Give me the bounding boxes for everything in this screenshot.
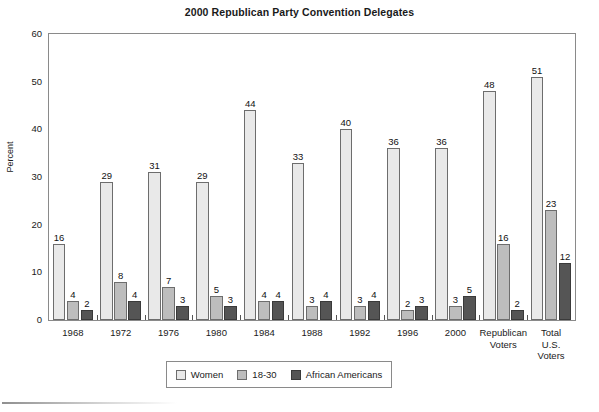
bar-chart: 2000 Republican Party Convention Delegat… [0,0,599,412]
bar-value-label: 4 [362,289,387,300]
bar [387,148,400,320]
bar-value-label: 29 [190,170,215,181]
y-axis-tick-label: 0 [2,314,42,325]
x-axis-tick [288,315,289,320]
bar-value-label: 12 [553,251,578,262]
bar [100,182,113,320]
bar-value-label: 48 [477,79,502,90]
bar-value-label: 33 [286,151,311,162]
bar [114,282,127,320]
chart-legend: Women18-30African Americans [166,361,392,388]
x-axis-tick [384,315,385,320]
bar-value-label: 3 [409,294,434,305]
legend-item[interactable]: 18-30 [237,369,276,380]
x-axis-tick [240,315,241,320]
bar-value-label: 3 [218,294,243,305]
legend-swatch-icon [237,370,247,380]
y-axis-tick-label: 60 [2,28,42,39]
bar [559,263,572,320]
bar-value-label: 5 [457,284,482,295]
bar [340,129,353,320]
bar [368,301,381,320]
bar [463,296,476,320]
x-axis-tick-label-line: Voters [519,350,583,362]
x-axis-tick [336,315,337,320]
legend-swatch-icon [291,370,301,380]
bar-value-label: 4 [122,289,147,300]
bar-value-label: 51 [525,65,550,76]
bar [128,301,141,320]
x-axis-tick-label-line: U.S. [519,339,583,351]
bar [81,310,94,320]
bar-value-label: 8 [108,270,133,281]
footer-rule [2,402,177,404]
bar [354,306,367,320]
bar-value-label: 44 [238,98,263,109]
bar [306,306,319,320]
legend-label: Women [191,369,224,380]
legend-label: African Americans [306,369,383,380]
bar-value-label: 4 [266,289,291,300]
legend-label: 18-30 [252,369,276,380]
bar [176,306,189,320]
legend-swatch-icon [176,370,186,380]
x-axis-tick [192,315,193,320]
y-axis-tick-label: 40 [2,123,42,134]
bar [483,91,496,320]
x-axis-tick-label: TotalU.S.Voters [519,327,583,362]
bar [449,306,462,320]
bar [224,306,237,320]
y-axis-tick-label: 10 [2,266,42,277]
y-axis-tick-label: 20 [2,219,42,230]
legend-item[interactable]: African Americans [291,369,383,380]
y-axis-tick-label: 30 [2,171,42,182]
bar-value-label: 16 [491,232,516,243]
bar [401,310,414,320]
bar-value-label: 36 [381,136,406,147]
legend-item[interactable]: Women [176,369,224,380]
bar-value-label: 4 [314,289,339,300]
x-axis-tick-label-line: Total [519,327,583,339]
x-axis-tick [432,315,433,320]
x-axis-tick [527,315,528,320]
bar-value-label: 40 [334,117,359,128]
bar [53,244,66,320]
bar-value-label: 23 [539,198,564,209]
chart-title: 2000 Republican Party Convention Delegat… [0,6,599,18]
bar-value-label: 36 [429,136,454,147]
bar-value-label: 31 [142,160,167,171]
y-axis-tick-label: 50 [2,76,42,87]
bar-value-label: 16 [47,232,72,243]
x-axis-tick [479,315,480,320]
bar-value-label: 7 [156,275,181,286]
bar [148,172,161,320]
bar-value-label: 3 [170,294,195,305]
bar [511,310,524,320]
bar [196,182,209,320]
bar-value-label: 2 [505,298,530,309]
plot-bars-layer: 1642298431732953444433344034362336354816… [49,34,575,320]
bar-value-label: 2 [75,298,100,309]
x-axis-tick [145,315,146,320]
bar [320,301,333,320]
bar [258,301,271,320]
x-axis-tick [97,315,98,320]
bar [415,306,428,320]
bar [272,301,285,320]
bar-value-label: 29 [94,170,119,181]
bar [545,210,558,320]
